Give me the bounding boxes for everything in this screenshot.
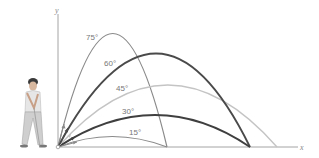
projectile-diagram: y x 75° 60° 45° 30° 15° bbox=[0, 0, 319, 158]
label-75: 75° bbox=[86, 33, 98, 42]
x-axis-label: x bbox=[299, 143, 304, 152]
y-axis-label: y bbox=[54, 6, 59, 15]
label-45: 45° bbox=[116, 84, 128, 93]
velocity-vectors bbox=[56, 124, 77, 149]
label-30: 30° bbox=[122, 107, 134, 116]
axes: y x bbox=[54, 6, 304, 152]
label-60: 60° bbox=[104, 59, 116, 68]
golfer-illustration bbox=[20, 78, 47, 148]
trajectories bbox=[58, 34, 277, 148]
label-15: 15° bbox=[129, 128, 141, 137]
